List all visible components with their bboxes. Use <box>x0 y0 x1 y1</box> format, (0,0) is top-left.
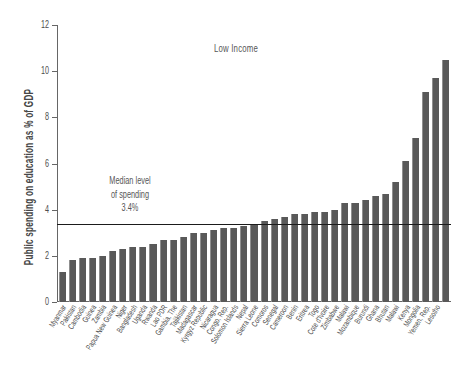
bar <box>372 196 379 302</box>
bar <box>220 228 227 302</box>
y-axis-line <box>57 25 58 302</box>
bar-chart: Low Income Public spending on education … <box>0 0 472 391</box>
bar <box>200 233 207 302</box>
y-axis-tick-label: 8 <box>22 111 49 123</box>
bar <box>362 200 369 302</box>
bar <box>311 212 318 302</box>
bar <box>240 226 247 302</box>
bar <box>119 249 126 302</box>
y-axis-tick-label: 6 <box>22 157 49 169</box>
y-axis-tick-label: 10 <box>22 65 49 77</box>
bar <box>281 217 288 302</box>
median-annotation-line: 3.4% <box>79 201 180 215</box>
bar <box>59 272 66 302</box>
bar <box>69 260 76 302</box>
bar <box>412 138 419 302</box>
y-axis-tick <box>52 25 57 26</box>
x-axis-tick-labels: MyanmarPakistanCambodiaGuineaZambiaPapua… <box>57 303 451 391</box>
bar <box>261 221 268 302</box>
bar <box>180 237 187 302</box>
bar <box>89 258 96 302</box>
bar <box>160 240 167 302</box>
bar <box>139 247 146 302</box>
bar <box>321 212 328 302</box>
bar <box>109 251 116 302</box>
bar <box>351 203 358 302</box>
bar <box>422 92 429 302</box>
median-annotation-line: Median level <box>79 174 180 188</box>
y-axis-tick <box>52 71 57 72</box>
median-annotation-line: of spending <box>79 188 180 202</box>
bar <box>382 194 389 302</box>
bar <box>129 247 136 302</box>
y-axis-tick <box>52 117 57 118</box>
bar <box>392 182 399 302</box>
y-axis-tick <box>52 210 57 211</box>
y-axis-tick-label: 4 <box>22 203 49 215</box>
bar <box>230 228 237 302</box>
y-axis-tick-label: 2 <box>22 249 49 261</box>
median-reference-line <box>57 224 451 225</box>
y-axis-tick-label: 0 <box>22 295 49 307</box>
bar <box>170 240 177 302</box>
median-annotation: Median levelof spending3.4% <box>79 174 180 215</box>
bar <box>250 224 257 302</box>
bar <box>190 233 197 302</box>
bar <box>210 230 217 302</box>
bar <box>402 161 409 302</box>
bar <box>79 258 86 302</box>
bar <box>341 203 348 302</box>
bar <box>442 60 449 302</box>
bar <box>99 256 106 302</box>
plot-area <box>57 25 451 302</box>
y-axis-tick <box>52 164 57 165</box>
bar <box>301 214 308 302</box>
bar <box>149 244 156 302</box>
bar <box>271 219 278 302</box>
y-axis-tick-label: 12 <box>22 18 49 30</box>
y-axis-tick <box>52 256 57 257</box>
bar <box>291 214 298 302</box>
bar <box>432 78 439 302</box>
